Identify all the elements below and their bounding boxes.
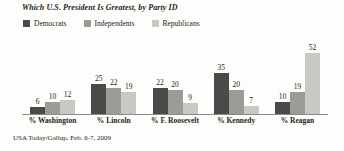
bar <box>121 92 136 114</box>
legend-label-independents: Independents <box>95 19 135 28</box>
bar <box>153 88 168 114</box>
bar-group: 252219 <box>83 40 144 114</box>
x-axis-baseline <box>22 114 328 115</box>
bar-item: 6 <box>30 40 45 114</box>
bar <box>60 100 75 114</box>
bar-group: 22209 <box>144 40 205 114</box>
bar-value-label: 19 <box>294 82 302 91</box>
legend-label-republicans: Republicans <box>163 19 200 28</box>
legend-label-democrats: Democrats <box>34 19 67 28</box>
bar-item: 22 <box>153 40 168 114</box>
bar-item: 22 <box>106 40 121 114</box>
category-label: % F. Roosevelt <box>144 116 205 125</box>
bar-group: 61012 <box>22 40 83 114</box>
bar <box>229 90 244 114</box>
bar-value-label: 10 <box>49 92 57 101</box>
bar-value-label: 52 <box>309 43 317 52</box>
bar-group: 101952 <box>267 40 328 114</box>
category-label: % Reagan <box>267 116 328 125</box>
bar <box>168 90 183 114</box>
bar <box>45 102 60 114</box>
bar-value-label: 19 <box>125 82 133 91</box>
bar-item: 35 <box>214 40 229 114</box>
category-label: % Washington <box>22 116 83 125</box>
bar-value-label: 22 <box>156 78 164 87</box>
bar-item: 20 <box>168 40 183 114</box>
bar-groups: 610122522192220935207101952 <box>22 40 328 114</box>
bar-item: 19 <box>290 40 305 114</box>
bar-item: 25 <box>91 40 106 114</box>
bar <box>275 102 290 114</box>
legend-swatch-democrats <box>23 20 30 27</box>
bar <box>183 103 198 114</box>
bar-value-label: 25 <box>95 74 103 83</box>
bar-item: 12 <box>60 40 75 114</box>
chart-source: USA Today/Gallup, Feb. 6-7, 2009 <box>13 134 111 142</box>
legend-swatch-independents <box>84 20 91 27</box>
chart-legend: Democrats Independents Republicans <box>23 19 200 28</box>
bar-value-label: 20 <box>171 80 179 89</box>
bar-group: 35207 <box>206 40 267 114</box>
legend-item-republicans: Republicans <box>152 19 200 28</box>
bar <box>106 88 121 114</box>
bar-item: 20 <box>229 40 244 114</box>
bar-item: 52 <box>305 40 320 114</box>
plot-area: 610122522192220935207101952 <box>22 40 328 115</box>
bar <box>91 84 106 114</box>
bar-item: 9 <box>183 40 198 114</box>
bar-value-label: 20 <box>232 80 240 89</box>
bar-value-label: 9 <box>188 93 192 102</box>
bar-value-label: 22 <box>110 78 118 87</box>
legend-item-democrats: Democrats <box>23 19 67 28</box>
bar-item: 19 <box>121 40 136 114</box>
category-label: % Kennedy <box>206 116 267 125</box>
bar-value-label: 35 <box>217 63 225 72</box>
legend-item-independents: Independents <box>84 19 135 28</box>
chart-figure: Which U.S. President Is Greatest, by Par… <box>0 0 344 151</box>
bar-item: 10 <box>275 40 290 114</box>
bar-value-label: 6 <box>36 97 40 106</box>
bar-item: 7 <box>244 40 259 114</box>
category-label: % Lincoln <box>83 116 144 125</box>
bar-value-label: 7 <box>249 96 253 105</box>
bar <box>214 73 229 114</box>
legend-swatch-republicans <box>152 20 159 27</box>
bar <box>30 107 45 114</box>
bar-value-label: 10 <box>279 92 287 101</box>
bar <box>244 106 259 114</box>
bar-item: 10 <box>45 40 60 114</box>
chart-title: Which U.S. President Is Greatest, by Par… <box>22 3 178 12</box>
bar <box>290 92 305 114</box>
category-axis-labels: % Washington% Lincoln% F. Roosevelt% Ken… <box>22 116 328 125</box>
bar-value-label: 12 <box>64 90 72 99</box>
bar <box>305 53 320 114</box>
